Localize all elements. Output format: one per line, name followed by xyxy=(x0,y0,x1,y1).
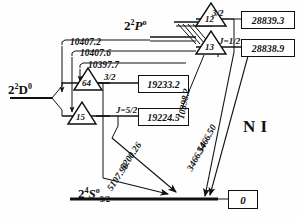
serial-label-64: 64 xyxy=(82,79,91,88)
wavelength-label-10397-7: 10397.7 xyxy=(88,61,119,71)
j-label-p12: J=1/2 xyxy=(219,37,240,46)
term-label-ground: 24So3/2 xyxy=(78,186,110,204)
term-label-2p: 22Po xyxy=(124,18,146,34)
level-line-d52 xyxy=(96,116,138,126)
serial-label-15: 15 xyxy=(76,113,85,122)
element-label: N I xyxy=(243,117,268,137)
energy-box-ground: 0 xyxy=(228,190,258,209)
j-label-d32: 3/2 xyxy=(104,73,116,82)
energy-level-diagram: 22Po 22D0 24So3/2 N I 3/2 J=1/2 3/2 J=5/… xyxy=(0,0,299,219)
wavelength-label-10407-6: 10407.6 xyxy=(80,49,111,59)
energy-box-28839: 28839.3 xyxy=(241,11,295,29)
serial-label-13: 13 xyxy=(205,43,214,52)
term-label-2d: 22D0 xyxy=(8,82,32,98)
energy-box-28838: 28838.9 xyxy=(241,39,295,57)
j-label-d52: J=5/2 xyxy=(116,106,137,115)
wavelength-label-10407-2: 10407.2 xyxy=(70,38,101,48)
serial-label-12: 12 xyxy=(205,15,214,24)
